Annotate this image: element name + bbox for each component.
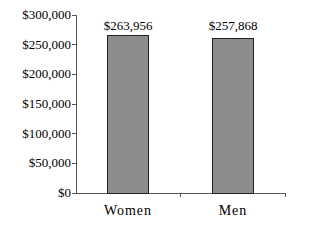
- x-tick: [285, 193, 286, 197]
- x-category-label-men: Men: [193, 203, 273, 219]
- y-tick: [72, 163, 76, 164]
- y-tick-label: $150,000: [22, 97, 71, 111]
- y-tick: [72, 104, 76, 105]
- y-tick-label: $300,000: [22, 8, 71, 22]
- x-tick: [180, 193, 181, 197]
- y-axis: [76, 15, 77, 194]
- bar-value-label-men: $257,868: [193, 18, 273, 34]
- bar-women: [107, 35, 149, 194]
- y-tick-label: $200,000: [22, 67, 71, 81]
- y-tick-label: $100,000: [22, 127, 71, 141]
- y-tick-label: $250,000: [22, 38, 71, 52]
- y-tick: [72, 44, 76, 45]
- y-tick-label: $50,000: [29, 156, 71, 170]
- y-tick-label: $0: [58, 186, 71, 200]
- bar-value-label-women: $263,956: [88, 18, 168, 34]
- y-tick: [72, 74, 76, 75]
- bar-men: [212, 38, 254, 194]
- y-tick: [72, 15, 76, 16]
- y-tick: [72, 133, 76, 134]
- x-category-label-women: Women: [88, 203, 168, 219]
